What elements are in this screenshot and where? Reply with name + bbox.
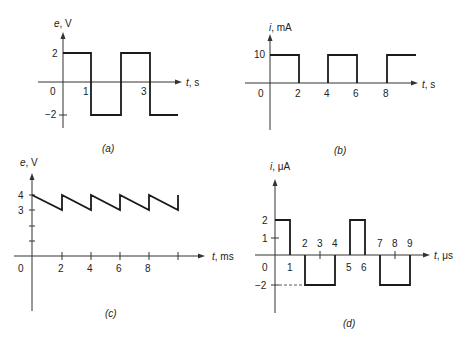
- panel-caption: (d): [343, 318, 355, 329]
- y-tick-label: −2: [45, 109, 57, 120]
- x-axis-arrow-icon: [423, 253, 430, 258]
- x-tick-label: 6: [361, 262, 367, 273]
- y-axis-label: i, mA: [269, 22, 292, 33]
- x-tick-label: 6: [353, 88, 359, 99]
- x-axis-label: t, s: [422, 79, 435, 90]
- x-tick-label: 5: [346, 262, 352, 273]
- panel-a: e, V t, s 0 2 −2 1 3 (a): [38, 18, 199, 154]
- origin-label: 0: [18, 263, 24, 274]
- x-tick-label: 9: [407, 238, 413, 249]
- y-axis-label: e, V: [54, 18, 72, 29]
- x-axis-arrow-icon: [175, 80, 182, 85]
- y-tick-label: 1: [262, 233, 268, 244]
- pulse-train-line: [328, 55, 357, 83]
- figure: e, V t, s 0 2 −2 1 3 (a) i, mA t, s 0 10…: [0, 0, 466, 339]
- x-tick-label: 7: [377, 238, 383, 249]
- pulse-wave-line: [305, 255, 335, 285]
- origin-label: 0: [262, 262, 268, 273]
- y-tick-label: 10: [254, 49, 266, 60]
- sawtooth-wave-line: [32, 195, 178, 210]
- square-wave-line: [63, 53, 178, 115]
- origin-label: 0: [258, 88, 264, 99]
- panel-b: i, mA t, s 0 10 2 4 6 8 (b): [245, 22, 435, 156]
- panel-caption: (a): [102, 143, 114, 154]
- pulse-train-line: [270, 55, 299, 83]
- y-tick-label: 3: [18, 205, 24, 216]
- x-axis-label: t, s: [186, 77, 199, 88]
- panel-caption: (b): [334, 145, 346, 156]
- x-tick-label: 4: [87, 263, 93, 274]
- x-tick-label: 3: [317, 238, 323, 249]
- x-tick-label: 2: [295, 88, 301, 99]
- x-tick-label: 2: [58, 263, 64, 274]
- x-tick-label: 8: [392, 238, 398, 249]
- x-tick-label: 4: [332, 238, 338, 249]
- panel-c: e, V t, ms 0 4 3 2 4 6 8 (c): [14, 157, 234, 319]
- origin-label: 0: [50, 86, 56, 97]
- y-axis-arrow-icon: [273, 179, 278, 186]
- x-tick-label: 1: [287, 262, 293, 273]
- x-tick-label: 4: [324, 88, 330, 99]
- x-tick-label: 8: [383, 88, 389, 99]
- x-tick-label: 8: [145, 263, 151, 274]
- x-tick-label: 2: [302, 238, 308, 249]
- x-tick-label: 6: [116, 263, 122, 274]
- y-tick-label: −2: [255, 280, 267, 291]
- y-axis-arrow-icon: [30, 173, 35, 180]
- pulse-wave-line: [380, 255, 410, 285]
- x-tick-label: 1: [83, 86, 89, 97]
- x-axis-label: t, μs: [434, 250, 453, 261]
- x-axis-label: t, ms: [212, 251, 234, 262]
- panel-d: i, μA t, μs 0 2 1 −2 1 5 6 2 3 4 7 8 9 (…: [255, 161, 453, 329]
- pulse-train-line: [387, 55, 416, 83]
- y-tick-label: 2: [262, 215, 268, 226]
- y-tick-label: 2: [52, 48, 58, 59]
- pulse-wave-line: [350, 220, 365, 255]
- panel-caption: (c): [105, 308, 117, 319]
- y-axis-label: i, μA: [270, 161, 291, 172]
- x-axis-arrow-icon: [198, 254, 205, 259]
- y-tick-label: 4: [18, 190, 24, 201]
- x-axis-arrow-icon: [411, 81, 418, 86]
- y-axis-label: e, V: [20, 157, 38, 168]
- x-tick-label: 3: [141, 86, 147, 97]
- y-axis-arrow-icon: [61, 32, 66, 39]
- y-axis-arrow-icon: [268, 34, 273, 41]
